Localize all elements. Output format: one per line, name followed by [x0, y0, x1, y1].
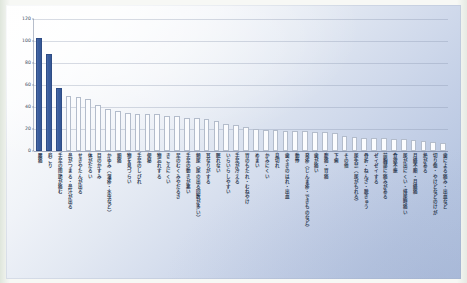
- category-label: 鼻がつまる・鼻汁が出る: [66, 153, 71, 210]
- label-slot: 息切れ: [271, 153, 281, 281]
- label-slot: 耳なりがする: [202, 153, 212, 281]
- bar-slot: [320, 19, 330, 151]
- label-slot: その他: [340, 153, 350, 281]
- bar-slot: [419, 19, 429, 151]
- bar[interactable]: [145, 114, 151, 151]
- bar[interactable]: [66, 96, 72, 151]
- bar[interactable]: [332, 133, 338, 151]
- label-slot: 体がだるい: [83, 153, 93, 281]
- bar-slot: [300, 19, 310, 151]
- bar[interactable]: [352, 137, 358, 151]
- bar-slot: [192, 19, 202, 151]
- category-label: 物を見づらい: [125, 153, 130, 184]
- bar[interactable]: [164, 116, 170, 151]
- bar[interactable]: [85, 99, 91, 151]
- bar[interactable]: [381, 138, 387, 151]
- category-label: 発疹（じんま疹・できものなど）: [303, 153, 308, 230]
- label-slot: 手足のしびれ: [133, 153, 143, 281]
- bar[interactable]: [391, 139, 397, 151]
- bar[interactable]: [154, 114, 160, 151]
- category-label: 手足が冷える: [234, 153, 239, 184]
- bar-slot: [340, 19, 350, 151]
- bar-slot: [182, 19, 192, 151]
- bar[interactable]: [204, 119, 210, 151]
- bar-slot: [389, 19, 399, 151]
- bar[interactable]: [36, 38, 42, 151]
- label-slot: 切り傷・やけどなどのけが: [428, 153, 438, 281]
- y-tick-label: 60: [25, 83, 31, 88]
- bar[interactable]: [292, 131, 298, 151]
- label-slot: 頻尿（尿の出る回数が多い）: [192, 153, 202, 281]
- bar[interactable]: [440, 143, 446, 151]
- label-slot: かみにくい: [261, 153, 271, 281]
- category-label: 頻尿（尿の出る回数が多い）: [194, 153, 199, 220]
- bar-slot: [172, 19, 182, 151]
- bar[interactable]: [361, 138, 367, 151]
- bar[interactable]: [273, 130, 279, 151]
- bar[interactable]: [430, 142, 436, 151]
- bar[interactable]: [194, 118, 200, 151]
- bar-slot: [409, 19, 419, 151]
- category-label: 尿失禁（尿がもれる）: [352, 153, 357, 205]
- bar[interactable]: [421, 141, 427, 151]
- bar[interactable]: [283, 131, 289, 151]
- label-slot: 前胸部に痛みがある: [379, 153, 389, 281]
- category-label: 歯が痛い: [313, 153, 318, 174]
- bar[interactable]: [223, 124, 229, 152]
- label-slot: 目のかすみ: [93, 153, 103, 281]
- label-slot: いらいらしやすい: [221, 153, 231, 281]
- bar-slot: [34, 19, 44, 151]
- bar-slot: [54, 19, 64, 151]
- bar-slot: [280, 19, 290, 151]
- plot-area: 020406080100120: [34, 19, 448, 151]
- label-slot: 腰痛: [34, 153, 44, 281]
- bar-slot: [83, 19, 93, 151]
- bar[interactable]: [322, 132, 328, 151]
- bar-slot: [231, 19, 241, 151]
- bar-slot: [221, 19, 231, 151]
- bar[interactable]: [342, 136, 348, 151]
- bar[interactable]: [263, 130, 269, 151]
- bar-slot: [202, 19, 212, 151]
- bar[interactable]: [243, 127, 249, 151]
- bar[interactable]: [115, 111, 121, 151]
- label-slot: ゼイゼイする: [369, 153, 379, 281]
- bar[interactable]: [125, 113, 131, 152]
- bar[interactable]: [46, 54, 52, 151]
- chart-canvas: 020406080100120 腰痛肩こり手足の関節が痛む鼻がつまる・鼻汁が出る…: [6, 5, 461, 279]
- category-label: 歯による痛み・出血など: [441, 153, 446, 210]
- category-label: 前胸部に痛みがある: [382, 153, 387, 199]
- label-slot: 月経不順・月経痛: [409, 153, 419, 281]
- bar[interactable]: [105, 109, 111, 151]
- bar[interactable]: [135, 114, 141, 151]
- label-slot: 手足の関節が痛む: [54, 153, 64, 281]
- bar-slot: [64, 19, 74, 151]
- bar[interactable]: [411, 140, 417, 151]
- bar[interactable]: [76, 97, 82, 151]
- label-slot: 鼻がつまる・鼻汁が出る: [64, 153, 74, 281]
- bar-slot: [162, 19, 172, 151]
- bar[interactable]: [214, 121, 220, 151]
- bar[interactable]: [401, 139, 407, 151]
- bar[interactable]: [184, 118, 190, 151]
- label-slot: きこえにくい: [162, 153, 172, 281]
- bar[interactable]: [371, 138, 377, 151]
- category-label: かゆみ（湿疹・水虫など）: [106, 153, 111, 215]
- category-label: 下痢: [332, 153, 337, 163]
- bar[interactable]: [174, 116, 180, 151]
- category-label: 胃のもたれ・むねやけ: [244, 153, 249, 205]
- label-slot: 腹痛・胃痛: [320, 153, 330, 281]
- bar[interactable]: [312, 132, 318, 151]
- bar[interactable]: [233, 125, 239, 151]
- bar[interactable]: [302, 131, 308, 151]
- bar[interactable]: [56, 88, 62, 151]
- bar[interactable]: [253, 129, 259, 151]
- bar[interactable]: [95, 105, 101, 151]
- label-slot: かゆみ（湿疹・水虫など）: [103, 153, 113, 281]
- bar-slot: [44, 19, 54, 151]
- category-label: 動悸: [293, 153, 298, 163]
- scanned-page: 020406080100120 腰痛肩こり手足の関節が痛む鼻がつまる・鼻汁が出る…: [0, 0, 467, 283]
- category-label: 足のむくみやだるさ: [175, 153, 180, 199]
- label-slot: 熱がある: [419, 153, 429, 281]
- bar-slot: [123, 19, 133, 151]
